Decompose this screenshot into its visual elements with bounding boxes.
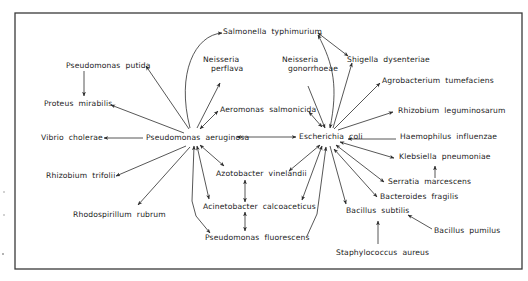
edge-ps-aeruginosa-to-rh-trifolii bbox=[116, 146, 186, 176]
genus-label: Neisseria bbox=[282, 55, 318, 64]
node-ps-fluorescens: Pseudomonasfluorescens bbox=[205, 233, 310, 242]
edge-ecoli-to-bacteroides bbox=[334, 149, 377, 197]
species-label: fluorescens bbox=[264, 233, 309, 242]
node-staph: Staphylococcusaureus bbox=[336, 248, 429, 257]
edge-aeromonas-to-ecoli bbox=[309, 112, 322, 127]
species-label: influenzae bbox=[456, 132, 497, 141]
species-label: putida bbox=[125, 61, 150, 70]
node-klebsiella: Klebsiellapneumoniae bbox=[399, 152, 491, 161]
edge-ps-aeruginosa-to-n-perflava bbox=[197, 83, 220, 128]
genus-label: Shigella bbox=[347, 55, 378, 64]
scan-mark bbox=[2, 253, 4, 255]
node-b-pumilus: Bacilluspumilus bbox=[434, 226, 500, 235]
node-bacteroides: Bacteroidesfragilis bbox=[380, 192, 458, 201]
edge-b-pumilus-to-b-subtilis bbox=[408, 215, 432, 229]
species-label: pumilus bbox=[469, 226, 500, 235]
node-ecoli: Escherichiacoli bbox=[299, 132, 363, 141]
edge-ps-aeruginosa-to-acinetobacter bbox=[197, 146, 209, 199]
genus-label: Staphylococcus bbox=[336, 248, 397, 257]
genus-label: Pseudomonas bbox=[205, 233, 259, 242]
genus-label: Haemophilus bbox=[400, 132, 451, 141]
species-label: coli bbox=[349, 132, 363, 141]
node-b-subtilis: Bacillussubtilis bbox=[346, 206, 409, 215]
node-label: Azotobactervinelandii bbox=[216, 169, 307, 178]
genus-label: Aeromonas bbox=[220, 105, 264, 114]
node-label: Pseudomonasfluorescens bbox=[205, 233, 310, 242]
edge-ps-aeruginosa-to-salmonella bbox=[185, 33, 222, 128]
species-label: pneumoniae bbox=[442, 152, 491, 161]
genus-label: Rhizobium bbox=[46, 171, 87, 180]
node-label: Aeromonassalmonicida bbox=[220, 105, 316, 114]
scan-mark bbox=[3, 214, 5, 216]
node-label: Neisseriaperflava bbox=[203, 55, 243, 73]
edge-ecoli-to-klebsiella bbox=[340, 142, 394, 158]
species-label: dysenteriae bbox=[383, 55, 430, 64]
node-label: Vibriocholerae bbox=[41, 133, 103, 142]
species-label: trifolii bbox=[92, 171, 115, 180]
node-rh-trifolii: Rhizobiumtrifolii bbox=[46, 171, 115, 180]
node-agrobacterium: Agrobacteriumtumefaciens bbox=[382, 76, 494, 85]
species-label: perflava bbox=[211, 64, 243, 73]
genus-label: Bacillus bbox=[346, 206, 376, 215]
node-label: Bacteroidesfragilis bbox=[380, 192, 458, 201]
genus-label: Bacillus bbox=[434, 226, 464, 235]
genus-label: Rhodospirillum bbox=[73, 210, 132, 219]
genus-label: Salmonella bbox=[223, 27, 266, 36]
node-serratia: Serratiamarcescens bbox=[388, 177, 471, 186]
species-label: salmonicida bbox=[269, 105, 316, 114]
node-acinetobacter: Acinetobactercalcoaceticus bbox=[203, 202, 316, 211]
edge-ecoli-to-serratia bbox=[336, 145, 384, 182]
node-label: Acinetobactercalcoaceticus bbox=[203, 202, 316, 211]
species-label: aeruginosa bbox=[205, 133, 249, 142]
genus-label: Escherichia bbox=[299, 132, 344, 141]
species-label: aureus bbox=[402, 248, 429, 257]
species-label: tumefaciens bbox=[445, 76, 494, 85]
edge-ecoli-to-rh-leguminosarum bbox=[338, 112, 393, 130]
node-rh-leguminosarum: Rhizobiumleguminosarum bbox=[398, 106, 506, 115]
genus-label: Rhizobium bbox=[398, 106, 439, 115]
node-proteus: Proteusmirabilis bbox=[44, 99, 112, 108]
genus-label: Acinetobacter bbox=[203, 202, 259, 211]
edge-ecoli-to-b-subtilis bbox=[330, 146, 346, 204]
node-label: Rhizobiumtrifolii bbox=[46, 171, 115, 180]
genus-label: Pseudomonas bbox=[146, 133, 200, 142]
species-label: calcoaceticus bbox=[263, 202, 316, 211]
genus-label: Proteus bbox=[44, 99, 74, 108]
node-label: Pseudomonasputida bbox=[66, 61, 151, 70]
species-label: rubrum bbox=[137, 210, 166, 219]
species-label: mirabilis bbox=[79, 99, 113, 108]
genus-label: Bacteroides bbox=[380, 192, 427, 201]
node-label: Neisseriagonorrhoeae bbox=[282, 55, 338, 73]
species-label: cholerae bbox=[69, 133, 103, 142]
node-label: Rhizobiumleguminosarum bbox=[398, 106, 506, 115]
genus-label: Vibrio bbox=[41, 133, 64, 142]
node-label: Staphylococcusaureus bbox=[336, 248, 429, 257]
edge-ps-aeruginosa-to-aeromonas bbox=[200, 111, 218, 129]
bacteria-relationship-diagram: SalmonellatyphimuriumShigelladysenteriae… bbox=[0, 0, 528, 281]
species-label: typhimurium bbox=[271, 27, 322, 36]
node-ps-aeruginosa: Pseudomonasaeruginosa bbox=[146, 133, 249, 142]
genus-label: Neisseria bbox=[203, 55, 239, 64]
node-n-perflava: Neisseriaperflava bbox=[203, 55, 243, 73]
genus-label: Pseudomonas bbox=[66, 61, 120, 70]
edge-ecoli-to-agrobacterium bbox=[334, 83, 380, 129]
node-salmonella: Salmonellatyphimurium bbox=[223, 27, 322, 36]
edge-ecoli-to-azotobacter bbox=[289, 145, 320, 171]
node-label: Salmonellatyphimurium bbox=[223, 27, 322, 36]
species-label: gonorrhoeae bbox=[288, 64, 338, 73]
node-label: Bacillussubtilis bbox=[346, 206, 409, 215]
node-label: Bacilluspumilus bbox=[434, 226, 500, 235]
species-label: vinelandii bbox=[269, 169, 307, 178]
node-ps-putida: Pseudomonasputida bbox=[66, 61, 151, 70]
node-layer: SalmonellatyphimuriumShigelladysenteriae… bbox=[41, 27, 506, 257]
node-label: Klebsiellapneumoniae bbox=[399, 152, 491, 161]
node-label: Escherichiacoli bbox=[299, 132, 363, 141]
node-azotobacter: Azotobactervinelandii bbox=[216, 169, 307, 178]
node-label: Pseudomonasaeruginosa bbox=[146, 133, 249, 142]
species-label: fragilis bbox=[432, 192, 459, 201]
genus-label: Klebsiella bbox=[399, 152, 437, 161]
node-rhodospirillum: Rhodospirillumrubrum bbox=[73, 210, 166, 219]
node-label: Haemophilusinfluenzae bbox=[400, 132, 497, 141]
genus-label: Serratia bbox=[388, 177, 419, 186]
species-label: leguminosarum bbox=[444, 106, 505, 115]
